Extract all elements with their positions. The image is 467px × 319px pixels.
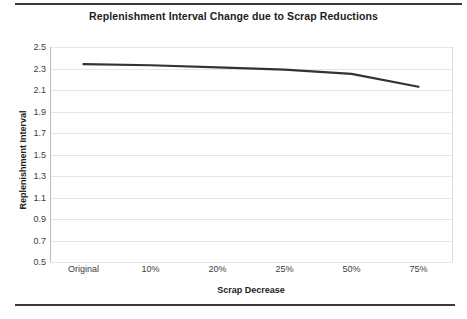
x-axis-tick-labels: Original10%20%25%50%75% <box>50 264 452 280</box>
y-axis-tick-label: 0.5 <box>4 257 46 267</box>
x-axis-tick-label: 10% <box>141 264 159 274</box>
y-axis-tick-label: 1.1 <box>4 193 46 203</box>
y-axis-tick-label: 2.3 <box>4 64 46 74</box>
top-divider-rule <box>15 3 462 5</box>
y-axis-tick-label: 0.7 <box>4 236 46 246</box>
y-axis-tick-label: 2.5 <box>4 42 46 52</box>
x-axis-tick-label: 75% <box>409 264 427 274</box>
y-axis-tick-label: 1.5 <box>4 150 46 160</box>
y-axis-tick-label: 1.3 <box>4 171 46 181</box>
y-axis-tick-label: 2.1 <box>4 85 46 95</box>
y-axis-tick-label: 1.7 <box>4 128 46 138</box>
y-axis-tick-label: 0.9 <box>4 214 46 224</box>
y-axis-tick-label: 1.9 <box>4 107 46 117</box>
x-axis-tick-label: 20% <box>208 264 226 274</box>
x-axis-tick-label: Original <box>68 264 99 274</box>
y-axis-tick-labels: 2.52.32.11.91.71.51.31.10.90.70.5 <box>0 47 46 262</box>
x-axis-tick-label: 50% <box>342 264 360 274</box>
chart-page: Replenishment Interval Change due to Scr… <box>0 0 467 319</box>
chart-title: Replenishment Interval Change due to Scr… <box>0 10 467 22</box>
gridline <box>50 262 452 263</box>
x-axis-tick-label: 25% <box>275 264 293 274</box>
x-axis-title: Scrap Decrease <box>50 285 452 295</box>
data-series-line <box>50 47 452 262</box>
plot-right-border <box>452 47 453 262</box>
bottom-divider-rule <box>15 304 455 306</box>
